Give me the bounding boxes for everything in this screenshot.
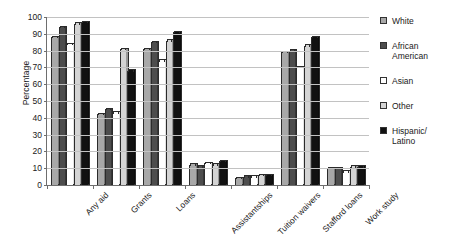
y-tick-mark — [44, 34, 47, 35]
legend-label: Hispanic/ Latino — [392, 126, 427, 146]
bar — [97, 114, 105, 185]
bar — [151, 42, 159, 185]
bar-side-face — [226, 160, 228, 185]
y-tick-label: 40 — [33, 113, 42, 123]
bar — [173, 32, 181, 185]
legend-label: African American — [392, 41, 428, 61]
y-tick-label: 20 — [33, 146, 42, 156]
y-tick-label: 10 — [33, 163, 42, 173]
grid-line — [47, 17, 369, 18]
x-axis-label: Grants — [128, 190, 153, 215]
grid-line — [47, 84, 369, 85]
grid-line — [47, 118, 369, 119]
y-tick-label: 70 — [33, 62, 42, 72]
y-tick-label: 50 — [33, 96, 42, 106]
bar — [258, 175, 266, 185]
bar — [81, 22, 89, 185]
y-tick-label: 100 — [28, 12, 42, 22]
legend-swatch — [380, 127, 387, 134]
legend-label: White — [392, 16, 414, 26]
y-tick-mark — [44, 17, 47, 18]
x-axis-label: Assistantships — [228, 190, 273, 235]
x-tick-mark — [369, 185, 370, 189]
bar — [51, 37, 59, 185]
x-axis-label: Loans — [173, 190, 196, 213]
grid-line — [47, 135, 369, 136]
y-axis-title: Percentage — [21, 33, 31, 133]
legend-label: Other — [392, 101, 413, 111]
bar — [166, 41, 174, 185]
bar-side-face — [318, 36, 320, 185]
y-tick-mark — [44, 67, 47, 68]
legend-item[interactable]: Hispanic/ Latino — [380, 126, 454, 146]
legend-swatch — [380, 17, 387, 24]
bar — [235, 178, 243, 185]
bar — [342, 172, 350, 185]
x-axis-label: Tuition waivers — [275, 190, 322, 237]
chart-legend: WhiteAfrican AmericanAsianOtherHispanic/… — [380, 16, 454, 161]
y-tick-label: 90 — [33, 29, 42, 39]
grid-line — [47, 51, 369, 52]
bar — [66, 44, 74, 185]
bar — [112, 113, 120, 185]
bar — [74, 24, 82, 185]
bar — [357, 167, 365, 185]
legend-swatch — [380, 42, 387, 49]
legend-label: Asian — [392, 76, 413, 86]
y-tick-label: 30 — [33, 130, 42, 140]
grid-line — [47, 168, 369, 169]
y-tick-label: 80 — [33, 46, 42, 56]
bar — [204, 163, 212, 185]
y-tick-mark — [44, 101, 47, 102]
grid-line — [47, 101, 369, 102]
y-tick-label: 0 — [37, 180, 42, 190]
x-axis-labels: Any aidGrantsLoansAssistantshipsTuition … — [46, 186, 368, 244]
bar — [243, 177, 251, 185]
bar-chart: Percentage 0102030405060708090100 Any ai… — [0, 0, 454, 245]
legend-item[interactable]: Asian — [380, 76, 454, 86]
bar — [158, 61, 166, 185]
bar — [250, 177, 258, 185]
y-tick-mark — [44, 51, 47, 52]
bar-side-face — [88, 21, 90, 185]
bar — [350, 167, 358, 185]
bar — [311, 37, 319, 185]
legend-item[interactable]: White — [380, 16, 454, 26]
legend-item[interactable]: Other — [380, 101, 454, 111]
bar — [335, 168, 343, 185]
plot-area: 0102030405060708090100 — [46, 17, 369, 186]
legend-swatch — [380, 77, 387, 84]
y-tick-mark — [44, 118, 47, 119]
grid-line — [47, 151, 369, 152]
y-tick-mark — [44, 151, 47, 152]
bar-side-face — [272, 174, 274, 185]
bar — [265, 175, 273, 185]
bar — [327, 168, 335, 185]
bar — [197, 167, 205, 185]
grid-line — [47, 67, 369, 68]
x-axis-label: Work study — [363, 190, 400, 227]
x-axis-label: Any aid — [83, 190, 110, 217]
bar — [105, 109, 113, 185]
x-axis-label: Stafford loans — [320, 190, 364, 234]
y-tick-mark — [44, 135, 47, 136]
y-tick-mark — [44, 168, 47, 169]
legend-item[interactable]: African American — [380, 41, 454, 61]
bar-side-face — [180, 31, 182, 185]
y-tick-mark — [44, 84, 47, 85]
y-tick-label: 60 — [33, 79, 42, 89]
legend-swatch — [380, 102, 387, 109]
bar — [219, 161, 227, 185]
grid-line — [47, 34, 369, 35]
